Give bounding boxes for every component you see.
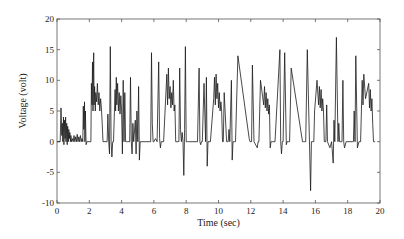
x-tick-label: 14 bbox=[279, 206, 289, 216]
voltage-time-chart: -10-505101520 02468101214161820 Time (se… bbox=[0, 0, 404, 239]
y-axis-label: Voltage (volt) bbox=[17, 73, 29, 128]
x-tick-label: 10 bbox=[214, 206, 224, 216]
x-tick-label: 8 bbox=[184, 206, 189, 216]
voltage-trace bbox=[57, 37, 375, 190]
x-tick-label: 4 bbox=[119, 206, 124, 216]
y-tick-label: 15 bbox=[45, 45, 55, 55]
x-tick-label: 6 bbox=[152, 206, 157, 216]
y-tick-label: -10 bbox=[42, 198, 54, 208]
x-tick-label: 16 bbox=[311, 206, 321, 216]
y-tick-label: 10 bbox=[45, 75, 55, 85]
x-tick-label: 2 bbox=[87, 206, 92, 216]
x-tick-label: 0 bbox=[55, 206, 60, 216]
y-tick-label: -5 bbox=[47, 167, 55, 177]
x-tick-label: 18 bbox=[343, 206, 353, 216]
plot-frame bbox=[57, 19, 380, 203]
x-tick-label: 20 bbox=[376, 206, 386, 216]
y-tick-label: 5 bbox=[50, 106, 55, 116]
y-tick-label: 0 bbox=[50, 137, 55, 147]
y-tick-label: 20 bbox=[45, 14, 55, 24]
x-axis-label: Time (sec) bbox=[197, 217, 240, 229]
x-tick-label: 12 bbox=[246, 206, 255, 216]
